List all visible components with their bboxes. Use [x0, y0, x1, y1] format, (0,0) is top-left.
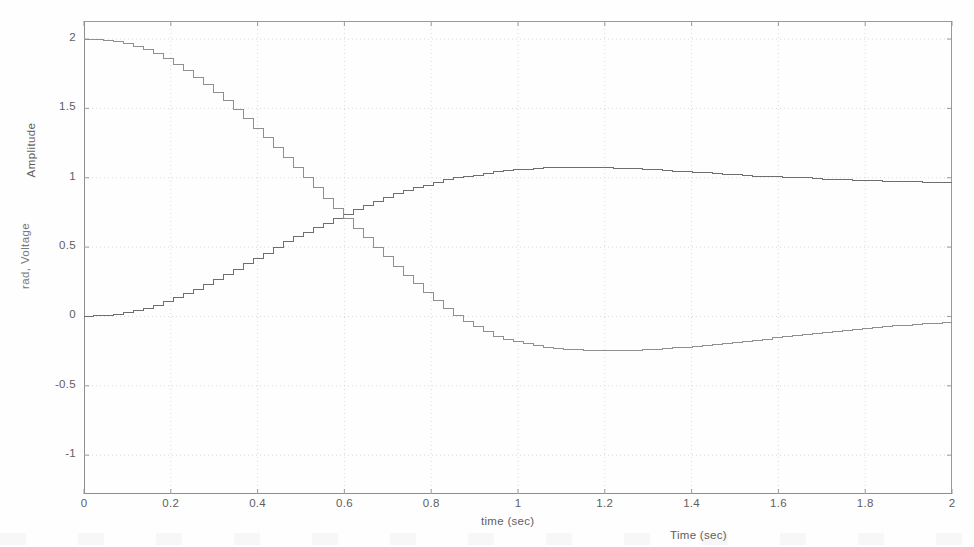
x-tick-label: 0.4 [249, 497, 266, 509]
y-tick-labels: 21.510.50-0.5-1 [44, 0, 76, 547]
y-tick-label: -0.5 [55, 378, 76, 390]
y-tick-label: 1.5 [59, 100, 76, 112]
x-tick-labels: 00.20.40.60.811.21.41.61.82 [0, 497, 974, 517]
plot-axes-frame [84, 21, 952, 494]
x-tick-label: 0.2 [162, 497, 179, 509]
scan-artifact-band [0, 533, 974, 545]
x-axis-label-primary: time (sec) [481, 515, 534, 527]
y-tick-label: -1 [65, 447, 76, 459]
y-tick-label: 0.5 [59, 239, 76, 251]
y-axis-label-primary: Amplitude [25, 105, 37, 195]
figure-canvas: 21.510.50-0.5-1 00.20.40.60.811.21.41.61… [0, 0, 974, 547]
x-tick-label: 0.8 [423, 497, 440, 509]
x-tick-label: 2 [949, 497, 956, 509]
x-tick-label: 1 [515, 497, 522, 509]
x-tick-label: 0.6 [336, 497, 353, 509]
x-tick-label: 0 [81, 497, 88, 509]
y-axis-label-secondary: rad, Voltage [19, 211, 31, 301]
y-tick-label: 0 [69, 308, 76, 320]
x-tick-label: 1.6 [770, 497, 787, 509]
x-tick-label: 1.2 [596, 497, 613, 509]
y-tick-label: 2 [69, 31, 76, 43]
y-tick-label: 1 [69, 170, 76, 182]
x-tick-label: 1.4 [683, 497, 700, 509]
x-tick-label: 1.8 [857, 497, 874, 509]
